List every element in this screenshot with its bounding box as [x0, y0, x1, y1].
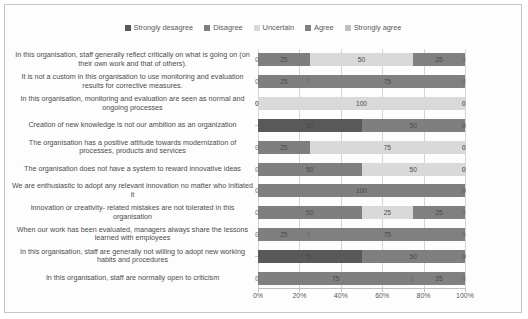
bar-value-label: 0: [462, 100, 466, 107]
bar-value-label: 0: [410, 275, 414, 282]
bar-row: 0250750: [258, 75, 465, 88]
bar-segment[interactable]: 75: [310, 141, 465, 154]
bar-segment[interactable]: 25: [413, 272, 465, 285]
legend-swatch-icon: [204, 25, 210, 31]
category-axis-tick: [255, 169, 258, 170]
bar-row: 0505000: [258, 163, 465, 176]
bar-value-label: 25: [435, 275, 442, 282]
category-label: The organisation has a positive attitude…: [11, 136, 256, 158]
bar-value-label: 50: [306, 253, 313, 260]
bar-value-label: 0: [462, 166, 466, 173]
bar-value-label: 50: [306, 166, 313, 173]
bar-segment[interactable]: 50: [362, 250, 466, 263]
bar-value-label: 0: [462, 144, 466, 151]
category-axis-labels: In this organisation, staff generally re…: [11, 49, 256, 289]
legend-label: Strongly agree: [354, 23, 402, 32]
bar-value-label: 0: [462, 209, 466, 216]
bar-segment[interactable]: 25: [258, 53, 310, 66]
category-label: Innovation or creativity- related mistak…: [11, 202, 256, 224]
bar-value-label: 25: [280, 56, 287, 63]
category-axis-tick: [255, 147, 258, 148]
category-label: We are enthusiastic to adopt any relevan…: [11, 180, 256, 202]
legend-item-1[interactable]: Disagree: [204, 23, 242, 32]
legend-item-4[interactable]: Strongly agree: [345, 23, 402, 32]
bar-segment[interactable]: 100: [258, 97, 465, 110]
bar-value-label: 25: [280, 78, 287, 85]
bar-value-label: 75: [384, 231, 391, 238]
category-axis-tick: [255, 256, 258, 257]
bar-value-label: 75: [332, 275, 339, 282]
bar-row: 0010000: [258, 97, 465, 110]
x-axis-tick-label: 80%: [417, 292, 431, 299]
chart-frame: Strongly desagreeDisagreeUncertainAgreeS…: [4, 4, 522, 313]
bar-value-label: 50: [410, 166, 417, 173]
bar-row: 0250750: [258, 228, 465, 241]
bar-value-label: 0: [462, 231, 466, 238]
category-axis-tick: [255, 234, 258, 235]
legend-item-3[interactable]: Agree: [305, 23, 334, 32]
category-axis-tick: [255, 60, 258, 61]
bar-value-label: 100: [356, 187, 367, 194]
bar-segment[interactable]: 75: [258, 272, 413, 285]
x-axis-tick-label: 20%: [292, 292, 306, 299]
bar-segment[interactable]: 25: [258, 75, 310, 88]
bar-segment[interactable]: 50: [258, 163, 362, 176]
x-axis-tick-label: 0%: [253, 292, 263, 299]
bar-value-label: 0: [462, 253, 466, 260]
legend-swatch-icon: [254, 25, 260, 31]
bar-value-label: 0: [462, 122, 466, 129]
bar-value-label: 50: [306, 209, 313, 216]
bar-value-label: 50: [306, 122, 313, 129]
bar-row: 5050000: [258, 119, 465, 132]
bar-segment[interactable]: 50: [258, 206, 362, 219]
bar-segment[interactable]: 50: [258, 250, 362, 263]
bar-row: 5050000: [258, 250, 465, 263]
bar-segment[interactable]: 100: [258, 184, 465, 197]
bar-segment[interactable]: 75: [310, 75, 465, 88]
bar-value-label: 25: [384, 209, 391, 216]
category-label: The organisation does not have a system …: [11, 158, 256, 180]
bar-value-label: 0: [462, 187, 466, 194]
legend-item-2[interactable]: Uncertain: [254, 23, 294, 32]
bar-segment[interactable]: 50: [362, 119, 466, 132]
legend-swatch-icon: [345, 25, 351, 31]
bar-segment[interactable]: 25: [413, 53, 465, 66]
bar-value-label: 0: [462, 56, 466, 63]
category-label: In this organisation, monitoring and eva…: [11, 93, 256, 115]
bar-value-label: 25: [280, 144, 287, 151]
bar-segment[interactable]: 25: [258, 141, 310, 154]
category-axis-tick: [255, 125, 258, 126]
bar-value-label: 50: [410, 122, 417, 129]
category-label: In this organisation, staff generally re…: [11, 49, 256, 71]
category-axis-tick: [255, 213, 258, 214]
bar-value-label: 0: [307, 231, 311, 238]
bar-segment[interactable]: 25: [362, 206, 414, 219]
bar-segment[interactable]: 50: [258, 119, 362, 132]
bar-segment[interactable]: 25: [258, 228, 310, 241]
bar-row: 02550250: [258, 53, 465, 66]
legend-swatch-icon: [125, 25, 131, 31]
category-axis-tick: [255, 278, 258, 279]
bar-segment[interactable]: 75: [310, 228, 465, 241]
bar-segment[interactable]: 50: [362, 163, 466, 176]
legend-label: Agree: [314, 23, 334, 32]
bar-value-label: 75: [384, 144, 391, 151]
legend-label: Strongly desagree: [134, 23, 194, 32]
x-axis-line: [258, 288, 465, 289]
bar-segment[interactable]: 25: [413, 206, 465, 219]
category-axis-tick: [255, 82, 258, 83]
bar-value-label: 50: [358, 56, 365, 63]
bar-row: 0257500: [258, 141, 465, 154]
category-label: Creation of new knowledge is not our amb…: [11, 114, 256, 136]
legend-label: Disagree: [213, 23, 242, 32]
bar-row: 0100000: [258, 184, 465, 197]
bar-value-label: 75: [384, 78, 391, 85]
legend-item-0[interactable]: Strongly desagree: [125, 23, 194, 32]
legend-swatch-icon: [305, 25, 311, 31]
bar-value-label: 100: [356, 100, 367, 107]
x-axis-tick-label: 100%: [456, 292, 474, 299]
bar-value-label: 25: [435, 56, 442, 63]
x-axis-tick-label: 60%: [375, 292, 389, 299]
bar-value-label: 25: [435, 209, 442, 216]
bar-segment[interactable]: 50: [310, 53, 414, 66]
